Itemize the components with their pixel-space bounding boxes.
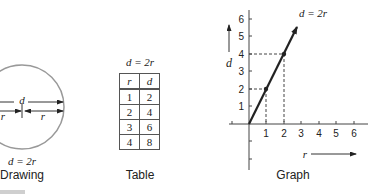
x-tick-4: 4 (316, 128, 322, 139)
cell-d: 6 (140, 120, 160, 135)
graph-y-axis-label: d (226, 56, 233, 70)
table-row: 2 4 (120, 105, 160, 120)
drawing-d-label: d (19, 94, 25, 106)
drawing-formula: d = 2r (8, 155, 37, 167)
x-tick-3: 3 (298, 128, 304, 139)
table-header-r: r (120, 74, 140, 90)
graph-caption: Graph (276, 168, 309, 182)
x-tick-1: 1 (263, 128, 269, 139)
x-tick-2: 2 (281, 128, 287, 139)
y-tick-3: 3 (238, 66, 244, 77)
table-title: d = 2r (119, 56, 161, 68)
graph-line-label: d = 2r (299, 7, 328, 19)
cell-d: 4 (140, 105, 160, 120)
y-tick-5: 5 (238, 31, 244, 42)
x-tick-5: 5 (333, 128, 339, 139)
cell-r: 3 (120, 120, 140, 135)
x-tick-6: 6 (351, 128, 357, 139)
table-row: 3 6 (120, 120, 160, 135)
point-1-2 (264, 87, 268, 91)
y-tick-4: 4 (238, 49, 244, 60)
y-tick-2: 2 (238, 84, 244, 95)
table-header-d: d (140, 74, 160, 90)
table-caption: Table (126, 168, 155, 182)
drawing-r-right-label: r (41, 110, 46, 122)
y-tick-1: 1 (238, 101, 244, 112)
graph-x-axis-label: r (303, 148, 308, 160)
drawing-r-left-label: r (1, 110, 6, 122)
cell-d: 8 (140, 135, 160, 150)
table-row: 1 2 (120, 89, 160, 105)
circle-drawing (0, 65, 64, 149)
cell-r: 2 (120, 105, 140, 120)
decorative-bar (0, 190, 25, 194)
drawing-caption: Drawing (0, 168, 44, 182)
diagram-canvas: d r r d = 2r Drawing d = 2r d r 1 2 3 4 … (0, 0, 368, 194)
y-tick-6: 6 (238, 14, 244, 25)
graph (229, 10, 368, 170)
line-d-equals-2r (249, 27, 297, 124)
cell-r: 1 (120, 89, 140, 105)
cell-r: 4 (120, 135, 140, 150)
values-table: r d 1 2 2 4 3 6 4 8 (119, 73, 160, 150)
cell-d: 2 (140, 89, 160, 105)
point-2-4 (282, 52, 286, 56)
table-row: 4 8 (120, 135, 160, 150)
